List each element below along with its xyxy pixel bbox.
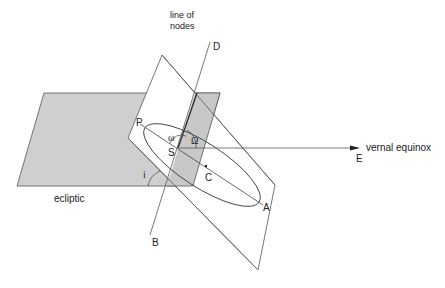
line-of-nodes-label-2: nodes: [170, 21, 195, 31]
label-ecliptic: ecliptic: [54, 193, 85, 204]
orbital-elements-diagram: line of nodes D B P S C A E ω Ω i eclipt…: [0, 0, 445, 288]
label-C: C: [205, 172, 212, 183]
label-Omega: Ω: [191, 135, 198, 146]
label-D: D: [213, 41, 220, 52]
label-inclination: i: [143, 169, 146, 180]
label-P: P: [136, 117, 143, 128]
line-of-nodes-label-1: line of: [170, 10, 195, 20]
label-E: E: [356, 153, 363, 164]
label-omega: ω: [168, 132, 175, 143]
arrow-head-icon: [350, 146, 360, 151]
center-point: [205, 165, 207, 167]
label-A: A: [263, 202, 270, 213]
label-S: S: [168, 147, 175, 158]
label-B: B: [152, 237, 159, 248]
label-vernal-equinox: vernal equinox: [366, 142, 431, 153]
